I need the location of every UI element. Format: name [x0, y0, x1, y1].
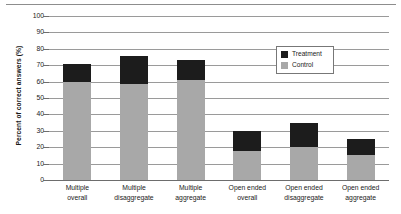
legend-item-control: Control — [281, 61, 329, 71]
chart-legend: Treatment Control — [276, 46, 334, 74]
x-axis-category-labels: MultipleoverallMultipledisaggregateMulti… — [49, 183, 389, 213]
bar-segment-control — [177, 80, 205, 180]
bar-segment-treatment — [233, 131, 261, 152]
bar-segment-treatment — [177, 60, 205, 80]
bar-group — [347, 16, 375, 180]
y-axis-tick-labels: 0102030405060708090100 — [22, 16, 44, 180]
chart-figure: Percent of correct answers (%) 010203040… — [0, 0, 401, 214]
bar-segment-control — [63, 82, 91, 180]
gridline-0 — [49, 180, 389, 181]
bar-group — [120, 16, 148, 180]
bar-series — [49, 16, 389, 180]
bar-segment-control — [120, 84, 148, 180]
bar-group — [177, 16, 205, 180]
legend-label-control: Control — [292, 62, 313, 69]
bar-segment-treatment — [347, 139, 375, 155]
bar-group — [233, 16, 261, 180]
bar-group — [63, 16, 91, 180]
bar-segment-control — [347, 155, 375, 180]
y-axis-title: Percent of correct answers (%) — [15, 16, 22, 176]
legend-swatch-control-icon — [281, 62, 288, 69]
bar-segment-control — [290, 147, 318, 180]
x-axis-label-line: aggregate — [324, 193, 398, 203]
legend-label-treatment: Treatment — [292, 51, 322, 58]
bar-segment-treatment — [63, 64, 91, 82]
legend-swatch-treatment-icon — [281, 51, 288, 58]
top-divider-rule — [6, 4, 396, 5]
bar-segment-control — [233, 151, 261, 180]
bar-segment-treatment — [290, 123, 318, 148]
plot-area — [49, 16, 389, 180]
x-axis-label-line: Open ended — [324, 183, 398, 193]
x-axis-label: Open endedaggregate — [324, 183, 398, 202]
legend-item-treatment: Treatment — [281, 50, 329, 60]
y-tick-mark-0 — [43, 180, 49, 181]
bar-segment-treatment — [120, 56, 148, 84]
bar-group — [290, 16, 318, 180]
